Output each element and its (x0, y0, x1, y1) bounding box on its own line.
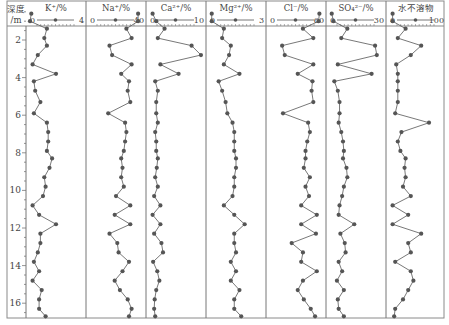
data-point (232, 185, 236, 189)
data-point (409, 194, 413, 198)
data-point (154, 288, 158, 292)
data-point (153, 130, 157, 134)
data-point (222, 203, 226, 207)
data-point (230, 121, 234, 125)
data-point (151, 12, 155, 16)
data-point (342, 149, 346, 153)
data-point (331, 19, 335, 23)
data-point (237, 288, 241, 292)
data-point (37, 297, 41, 301)
data-point (375, 53, 379, 57)
data-point (36, 250, 40, 254)
data-point (232, 232, 236, 236)
data-point (124, 130, 128, 134)
data-point (308, 130, 312, 134)
data-point (338, 232, 342, 236)
data-point (393, 260, 397, 264)
data-point (230, 194, 234, 198)
data-point (311, 100, 315, 104)
data-point (341, 156, 345, 160)
data-point (152, 232, 156, 236)
data-point (158, 62, 162, 66)
data-point (154, 111, 158, 115)
data-point (392, 314, 396, 318)
data-point (396, 100, 400, 104)
data-point (310, 79, 314, 83)
data-point (220, 89, 224, 93)
series-title: 水不溶物 (398, 3, 434, 13)
data-point (32, 79, 36, 83)
data-point (45, 44, 49, 48)
data-point (45, 27, 49, 31)
data-point (290, 241, 294, 245)
data-point (190, 44, 194, 48)
data-point (32, 111, 36, 115)
data-point (155, 269, 159, 273)
data-point (311, 36, 315, 40)
data-point (106, 111, 110, 115)
data-point (409, 250, 413, 254)
data-point (136, 19, 140, 23)
data-point (122, 185, 126, 189)
data-point (406, 241, 410, 245)
data-point (126, 297, 130, 301)
depth-tick-label: 8 (15, 148, 21, 158)
data-point (283, 53, 287, 57)
data-point (151, 213, 155, 217)
data-point (36, 53, 40, 57)
depth-tick-label: 12 (10, 223, 21, 233)
chart-frame (7, 1, 444, 318)
data-point (114, 194, 118, 198)
data-point (161, 250, 165, 254)
data-point (234, 156, 238, 160)
data-point (337, 307, 341, 311)
data-point (281, 111, 285, 115)
data-point (119, 72, 123, 76)
data-point (128, 100, 132, 104)
data-point (404, 175, 408, 179)
data-point (232, 130, 236, 134)
scale-max-label: 3 (259, 16, 264, 25)
data-point (128, 222, 132, 226)
data-point (406, 288, 410, 292)
series-title: Ca²⁺/% (161, 3, 191, 13)
data-point (210, 12, 214, 16)
data-point (54, 72, 58, 76)
data-point (37, 307, 41, 311)
data-point (232, 149, 236, 153)
scale-max-label: 30 (374, 16, 384, 25)
data-point (113, 213, 117, 217)
data-point (404, 27, 408, 31)
data-point (30, 62, 34, 66)
data-point (54, 222, 58, 226)
data-point (222, 62, 226, 66)
data-point (42, 175, 46, 179)
data-point (332, 79, 336, 83)
data-point (199, 53, 203, 57)
legend-marker (234, 18, 238, 22)
data-point (340, 194, 344, 198)
data-point (153, 297, 157, 301)
data-point (153, 175, 157, 179)
data-point (154, 149, 158, 153)
data-point (42, 36, 46, 40)
data-point (158, 203, 162, 207)
data-point (391, 19, 395, 23)
data-point (232, 307, 236, 311)
data-point (337, 100, 341, 104)
data-point (124, 27, 128, 31)
data-point (120, 269, 124, 273)
legend-marker (414, 18, 418, 22)
data-point (393, 111, 397, 115)
data-point (280, 44, 284, 48)
data-point (393, 307, 397, 311)
data-point (229, 260, 233, 264)
data-point (330, 12, 334, 16)
data-point (343, 241, 347, 245)
data-point (352, 222, 356, 226)
data-point (398, 149, 402, 153)
data-point (344, 166, 348, 170)
data-point (210, 19, 214, 23)
data-point (299, 203, 303, 207)
data-point (227, 53, 231, 57)
